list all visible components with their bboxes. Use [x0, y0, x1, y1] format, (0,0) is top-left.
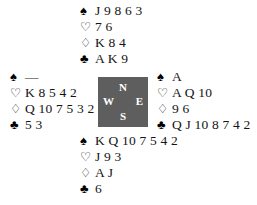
hand-west-clubs-row: ♣ 5 3 — [10, 117, 95, 133]
hand-north-spades: J 9 8 6 3 — [95, 3, 143, 19]
hand-west-diamonds: Q 10 7 5 3 2 — [25, 101, 95, 117]
hand-east-diamonds: 9 6 — [172, 101, 189, 117]
compass-east-label: E — [136, 96, 143, 107]
spade-icon: ♠ — [10, 69, 23, 85]
hand-east-spades-row: ♠ A — [157, 69, 251, 85]
hand-south-clubs-row: ♣ 6 — [80, 181, 178, 197]
hand-west-hearts: K 8 5 4 2 — [25, 85, 77, 101]
hand-east: ♠ A ♡ A Q 10 ♢ 9 6 ♣ Q J 10 8 7 4 2 — [157, 69, 251, 133]
compass-box: N W E S — [98, 77, 148, 127]
diamond-icon: ♢ — [80, 165, 93, 181]
hand-east-clubs: Q J 10 8 7 4 2 — [172, 117, 251, 133]
hand-east-clubs-row: ♣ Q J 10 8 7 4 2 — [157, 117, 251, 133]
hand-south: ♠ K Q 10 7 5 4 2 ♡ J 9 3 ♢ A J ♣ 6 — [80, 133, 178, 197]
hand-north-hearts-row: ♡ 7 6 — [80, 19, 143, 35]
bridge-deal-diagram: ♠ J 9 8 6 3 ♡ 7 6 ♢ K 8 4 ♣ A K 9 ♠ — ♡ … — [0, 0, 257, 205]
hand-west: ♠ — ♡ K 8 5 4 2 ♢ Q 10 7 5 3 2 ♣ 5 3 — [10, 69, 95, 133]
hand-north-clubs: A K 9 — [95, 51, 128, 67]
hand-north-hearts: 7 6 — [95, 19, 112, 35]
hand-east-spades: A — [172, 69, 182, 85]
heart-icon: ♡ — [10, 85, 23, 101]
hand-west-hearts-row: ♡ K 8 5 4 2 — [10, 85, 95, 101]
hand-south-clubs: 6 — [95, 181, 102, 197]
hand-south-diamonds: A J — [95, 165, 113, 181]
hand-south-hearts-row: ♡ J 9 3 — [80, 149, 178, 165]
compass-west-label: W — [103, 96, 114, 107]
hand-north-clubs-row: ♣ A K 9 — [80, 51, 143, 67]
diamond-icon: ♢ — [10, 101, 23, 117]
hand-west-diamonds-row: ♢ Q 10 7 5 3 2 — [10, 101, 95, 117]
hand-west-spades: — — [25, 69, 39, 85]
hand-west-clubs: 5 3 — [25, 117, 42, 133]
diamond-icon: ♢ — [157, 101, 170, 117]
club-icon: ♣ — [157, 117, 170, 133]
spade-icon: ♠ — [80, 133, 93, 149]
hand-east-hearts-row: ♡ A Q 10 — [157, 85, 251, 101]
heart-icon: ♡ — [80, 149, 93, 165]
club-icon: ♣ — [80, 51, 93, 67]
compass-north-label: N — [98, 82, 148, 93]
hand-north: ♠ J 9 8 6 3 ♡ 7 6 ♢ K 8 4 ♣ A K 9 — [80, 3, 143, 67]
hand-south-diamonds-row: ♢ A J — [80, 165, 178, 181]
heart-icon: ♡ — [80, 19, 93, 35]
hand-east-diamonds-row: ♢ 9 6 — [157, 101, 251, 117]
hand-east-hearts: A Q 10 — [172, 85, 212, 101]
hand-north-diamonds: K 8 4 — [95, 35, 126, 51]
club-icon: ♣ — [10, 117, 23, 133]
hand-west-spades-row: ♠ — — [10, 69, 95, 85]
hand-south-spades-row: ♠ K Q 10 7 5 4 2 — [80, 133, 178, 149]
heart-icon: ♡ — [157, 85, 170, 101]
club-icon: ♣ — [80, 181, 93, 197]
spade-icon: ♠ — [80, 3, 93, 19]
spade-icon: ♠ — [157, 69, 170, 85]
hand-south-spades: K Q 10 7 5 4 2 — [95, 133, 178, 149]
compass-south-label: S — [98, 111, 148, 122]
hand-south-hearts: J 9 3 — [95, 149, 122, 165]
hand-north-diamonds-row: ♢ K 8 4 — [80, 35, 143, 51]
hand-north-spades-row: ♠ J 9 8 6 3 — [80, 3, 143, 19]
diamond-icon: ♢ — [80, 35, 93, 51]
